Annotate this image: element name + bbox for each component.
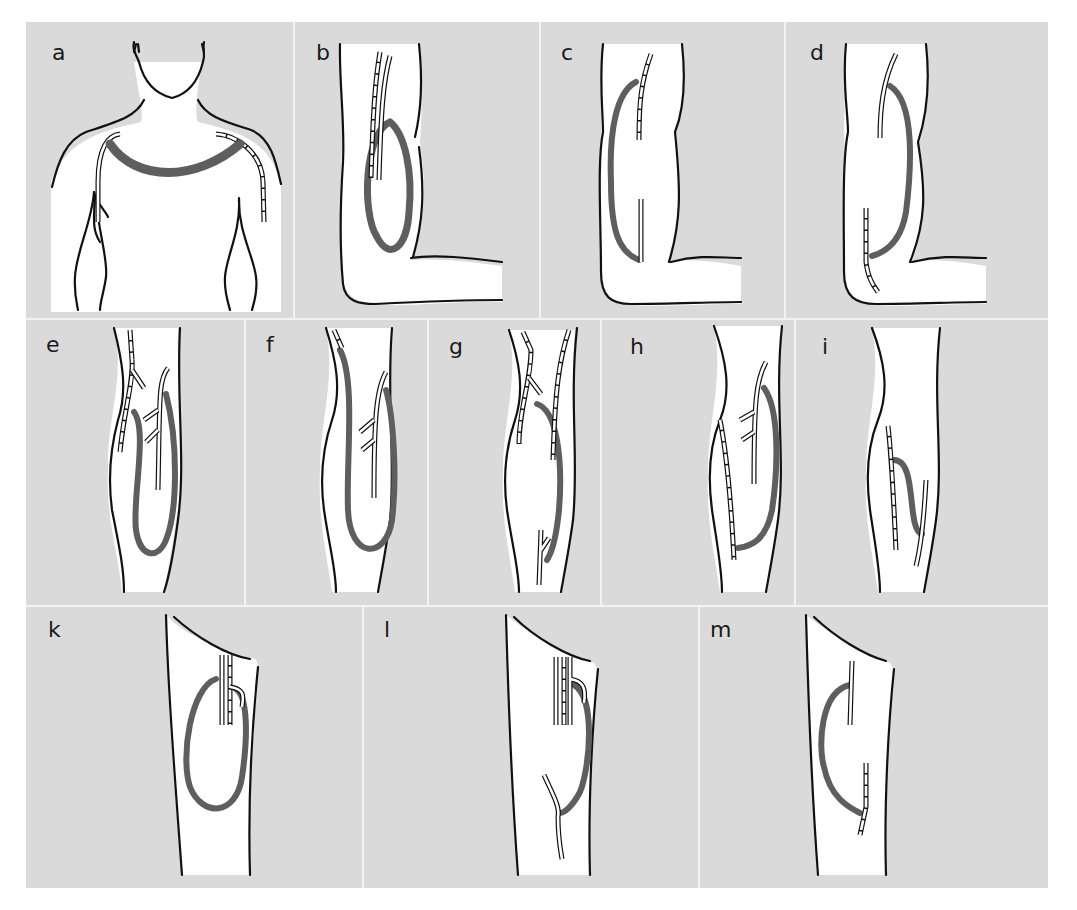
panel-g: g: [429, 320, 600, 605]
upper-arm-loop-d: [786, 22, 1048, 318]
forearm-loop-h: [602, 320, 794, 605]
panel-c: c: [541, 22, 784, 318]
panel-l: l: [364, 607, 698, 888]
panel-i: i: [796, 320, 1048, 605]
upper-arm-loop-b: [295, 22, 539, 318]
panel-m: m: [700, 607, 1048, 888]
thigh-loop-m: [700, 607, 1048, 888]
chest-loop-diagram: [26, 22, 293, 318]
figure-grid: a b: [26, 22, 1048, 888]
thigh-loop-l: [364, 607, 698, 888]
thigh-loop-k: [26, 607, 362, 888]
forearm-loop-g: [429, 320, 600, 605]
panel-d: d: [786, 22, 1048, 318]
panel-h: h: [602, 320, 794, 605]
forearm-loop-i: [796, 320, 1048, 605]
panel-k: k: [26, 607, 362, 888]
panel-e: e: [26, 320, 244, 605]
panel-b: b: [295, 22, 539, 318]
forearm-loop-e: [26, 320, 244, 605]
panel-a: a: [26, 22, 293, 318]
forearm-loop-f: [246, 320, 427, 605]
panel-f: f: [246, 320, 427, 605]
upper-arm-loop-c: [541, 22, 784, 318]
